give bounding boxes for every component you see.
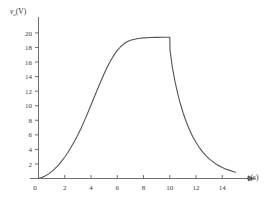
x-tick-label-6: 6 bbox=[116, 184, 120, 192]
x-tick-label-10: 10 bbox=[166, 184, 174, 192]
x-axis-unit: (s) bbox=[251, 173, 259, 182]
x-tick-label-4: 4 bbox=[89, 184, 93, 192]
y-tick-label-8: 8 bbox=[29, 117, 33, 125]
y-tick-label-6: 6 bbox=[29, 131, 33, 139]
y-tick-label-10: 10 bbox=[25, 102, 33, 110]
y-axis-title: vo(V) bbox=[10, 7, 27, 17]
y-tick-label-4: 4 bbox=[29, 146, 33, 154]
line-chart: 2468101214161820 2468101214 0 t(s) vo(V) bbox=[0, 0, 269, 200]
origin-tick-label: 0 bbox=[33, 184, 37, 192]
x-axis-title: t(s) bbox=[247, 173, 259, 182]
x-tick-label-12: 12 bbox=[193, 184, 201, 192]
x-tick-label-14: 14 bbox=[219, 184, 227, 192]
y-tick-label-18: 18 bbox=[25, 44, 33, 52]
x-tick-label-8: 8 bbox=[142, 184, 146, 192]
y-tick-label-16: 16 bbox=[25, 59, 33, 67]
y-tick-label-20: 20 bbox=[25, 30, 33, 38]
chart-container: 2468101214161820 2468101214 0 t(s) vo(V) bbox=[0, 0, 269, 200]
y-axis-unit: (V) bbox=[16, 7, 27, 16]
y-tick-label-12: 12 bbox=[25, 88, 33, 96]
y-tick-label-2: 2 bbox=[29, 161, 33, 169]
x-tick-label-2: 2 bbox=[63, 184, 67, 192]
y-tick-label-14: 14 bbox=[25, 73, 33, 81]
